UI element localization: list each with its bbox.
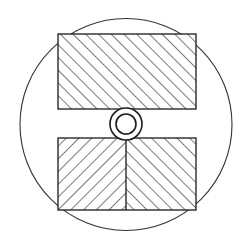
center-bore [110, 108, 142, 140]
technical-drawing [0, 0, 248, 249]
lower-block-right-hatching [126, 138, 196, 210]
upper-block [58, 34, 196, 109]
lower-block-left-hatching [58, 138, 126, 210]
diagram-canvas [0, 0, 248, 249]
bore-inner-circle [116, 114, 136, 134]
upper-block-hatching [58, 34, 196, 109]
lower-block [58, 138, 196, 210]
